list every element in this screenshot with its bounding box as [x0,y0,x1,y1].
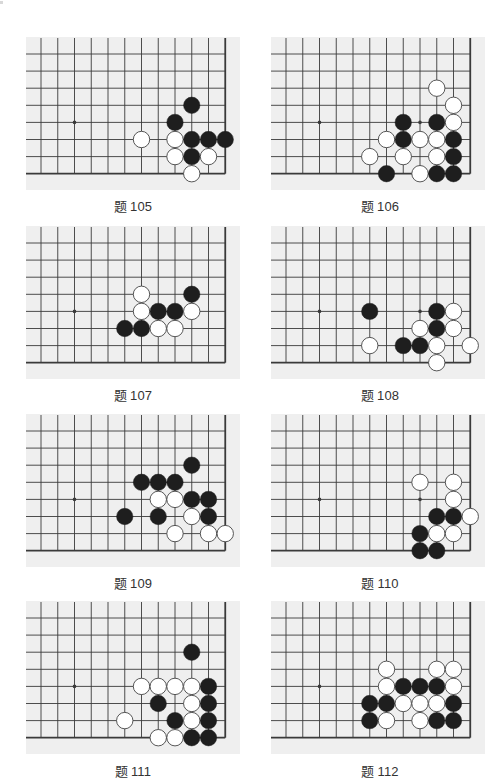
white-stone [184,508,200,524]
white-stone [184,303,200,319]
white-stone [167,730,183,746]
star-point [73,498,77,502]
white-stone [429,355,445,371]
black-stone [362,695,378,711]
white-stone [412,695,428,711]
white-stone [429,525,445,541]
white-stone [412,712,428,728]
white-stone [412,320,428,336]
black-stone [445,131,461,147]
black-stone [412,543,428,559]
white-stone [378,678,394,694]
white-stone [378,712,394,728]
problem-label: 题108 [260,385,500,404]
black-stone [150,508,166,524]
white-stone [445,303,461,319]
black-stone [184,457,200,473]
white-stone [395,148,411,164]
star-point [418,121,422,125]
black-stone [150,474,166,490]
problem-prefix: 题 [361,576,374,591]
black-stone [184,131,200,147]
problem-number: 108 [377,388,399,403]
black-stone [429,320,445,336]
problem-prefix: 题 [114,199,127,214]
black-stone [184,491,200,507]
black-stone [200,491,216,507]
black-stone [167,114,183,130]
white-stone [150,491,166,507]
white-stone [445,97,461,113]
black-stone [429,508,445,524]
go-board [271,601,501,756]
black-stone [412,337,428,353]
white-stone [150,730,166,746]
black-stone [150,303,166,319]
white-stone [184,166,200,182]
white-stone [167,131,183,147]
black-stone [362,303,378,319]
black-stone [167,474,183,490]
black-stone [429,678,445,694]
problem-number: 110 [377,576,398,591]
black-stone [412,678,428,694]
black-stone [429,303,445,319]
black-stone [200,730,216,746]
star-point [73,685,77,689]
problem-number: 111 [131,764,151,779]
white-stone [133,303,149,319]
problem-number: 106 [377,199,399,214]
white-stone [200,525,216,541]
black-stone [200,678,216,694]
black-stone [184,148,200,164]
problem-number: 105 [130,199,152,214]
white-stone [445,525,461,541]
problem-label: 题109 [13,573,253,592]
problem-prefix: 题 [361,764,374,779]
white-stone [150,320,166,336]
problem-number: 109 [130,576,152,591]
white-stone [429,131,445,147]
black-stone [395,114,411,130]
white-stone [429,695,445,711]
white-stone [133,131,149,147]
problem-prefix: 题 [114,388,127,403]
white-stone [362,337,378,353]
black-stone [445,695,461,711]
star-point [73,121,77,125]
white-stone [378,661,394,677]
problem-prefix: 题 [361,199,374,214]
black-stone [445,508,461,524]
star-point [318,121,322,125]
white-stone [445,661,461,677]
black-stone [445,166,461,182]
problem-prefix: 题 [114,576,127,591]
go-board [26,37,266,192]
problem-number: 107 [130,388,152,403]
black-stone [429,114,445,130]
white-stone [167,148,183,164]
white-stone [445,491,461,507]
star-point [73,310,77,314]
problem-label: 题106 [260,196,500,215]
white-stone [395,695,411,711]
white-stone [133,678,149,694]
black-stone [395,337,411,353]
white-stone [362,148,378,164]
white-stone [445,320,461,336]
black-stone [184,286,200,302]
black-stone [150,695,166,711]
white-stone [150,678,166,694]
problem-111 [26,601,266,782]
problem-label: 题107 [13,385,253,404]
problem-112 [271,601,501,782]
problem-prefix: 题 [115,764,128,779]
black-stone [200,712,216,728]
black-stone [133,320,149,336]
white-stone [184,712,200,728]
black-stone [429,543,445,559]
black-stone [117,320,133,336]
star-point [318,685,322,689]
black-stone [395,678,411,694]
white-stone [217,525,233,541]
